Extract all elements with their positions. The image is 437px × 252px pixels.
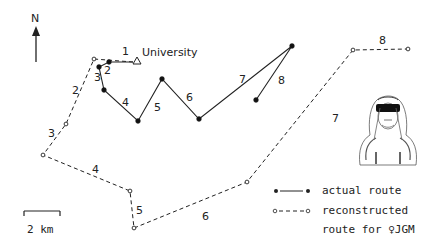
segment-label: 4 [92, 163, 99, 176]
route-point [290, 44, 295, 49]
segment-label: 5 [154, 101, 161, 114]
route-point [97, 65, 102, 70]
route-point [102, 88, 107, 93]
legend-reconstructed-symbol [273, 209, 310, 213]
segment-label: 3 [94, 71, 101, 84]
route-point [160, 77, 165, 82]
route-point [197, 117, 202, 122]
route-point [64, 122, 68, 126]
university-triangle-icon [133, 57, 141, 64]
segment-label: 2 [72, 84, 79, 97]
segment-label: 3 [48, 127, 55, 140]
route-diagram: N 2345678 12345678 University actual rou… [0, 0, 437, 252]
segment-label: 7 [332, 112, 339, 125]
route-point [254, 98, 259, 103]
legend-actual-symbol [274, 189, 310, 193]
route-point [351, 48, 355, 52]
segment-label: 1 [122, 45, 129, 58]
route-point [406, 47, 410, 51]
legend-actual-label: actual route [322, 184, 401, 197]
north-label: N [31, 12, 39, 25]
route-point [128, 189, 132, 193]
segment-label: 5 [136, 204, 143, 217]
segment-label: 8 [278, 74, 285, 87]
university-label: University [142, 46, 198, 59]
legend: actual route reconstructed route for ♀JG… [273, 184, 415, 236]
segment-label: 6 [202, 210, 209, 223]
north-arrow-icon [32, 26, 40, 62]
legend-reconstructed-label: reconstructed [322, 204, 408, 217]
segment-label: 4 [122, 96, 129, 109]
route-point [136, 119, 141, 124]
route-point [92, 57, 96, 61]
blindfolded-person-icon [359, 96, 416, 165]
segment-label: 6 [186, 91, 193, 104]
segment-label: 7 [239, 73, 246, 86]
route-point [245, 180, 249, 184]
scale-bar [24, 211, 60, 216]
segment-label: 8 [379, 34, 386, 47]
legend-reconstructed-label-2: route for ♀JGM [322, 223, 415, 236]
segment-label: 2 [104, 64, 111, 77]
route-point [41, 153, 45, 157]
route-point [132, 226, 136, 230]
scale-label: 2 km [27, 223, 54, 236]
